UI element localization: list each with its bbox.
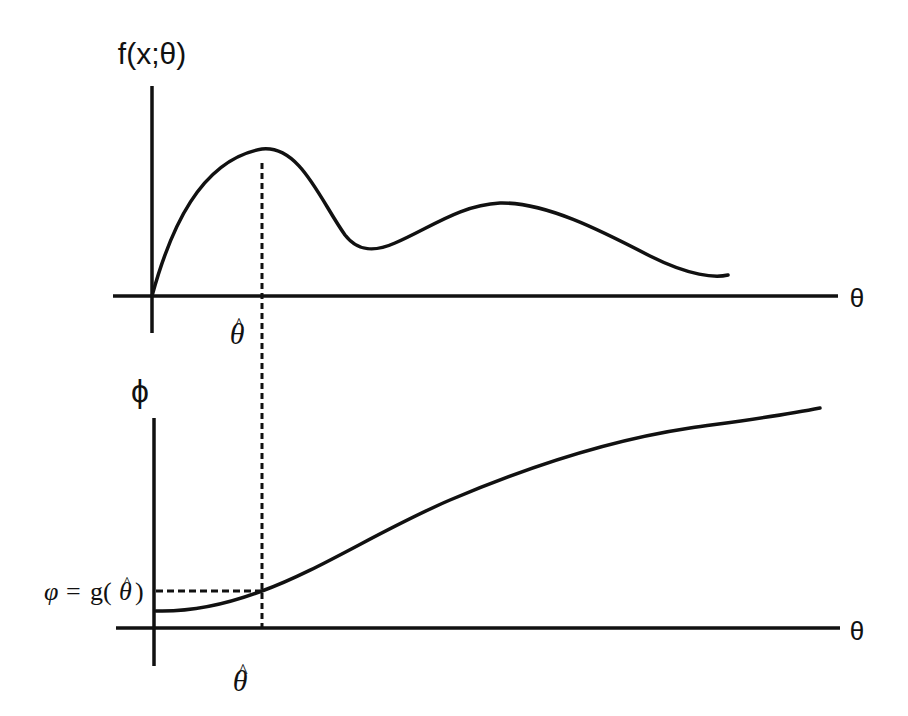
top-panel: f(x;θ) θ θ ^ <box>113 37 864 350</box>
g-close-paren: ) <box>135 577 144 606</box>
bottom-y-axis-label: ϕ <box>131 373 149 409</box>
equals-sign: = <box>66 577 81 606</box>
transformation-curve <box>156 408 820 611</box>
phi-symbol: φ <box>44 577 58 606</box>
phi-equals-g-theta-hat-label: φ = g( θ ^ ) <box>44 573 144 606</box>
top-y-axis-label: f(x;θ) <box>118 37 186 70</box>
bottom-x-axis-label: θ <box>850 616 864 646</box>
top-theta-hat-accent: ^ <box>234 314 244 336</box>
bottom-theta-hat-accent: ^ <box>238 660 248 682</box>
bottom-panel: ϕ θ θ ^ φ = g( θ ^ ) <box>44 373 864 697</box>
g-arg-theta-hat-accent: ^ <box>123 573 131 592</box>
g-open-paren: g( <box>90 577 112 606</box>
mle-invariance-diagram: f(x;θ) θ θ ^ ϕ θ θ ^ φ = g( θ ^ ) <box>0 0 908 716</box>
top-x-axis-label: θ <box>850 283 864 313</box>
likelihood-curve <box>152 149 728 296</box>
